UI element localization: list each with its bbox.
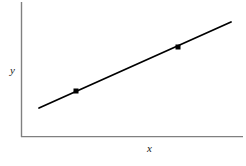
plot-canvas (0, 0, 246, 166)
data-point-marker-2 (176, 45, 181, 50)
line-chart-figure: y x (0, 0, 246, 166)
y-axis-label: y (10, 65, 15, 76)
trend-line (39, 22, 231, 108)
x-axis-label: x (147, 143, 152, 154)
data-point-marker-1 (74, 89, 79, 94)
